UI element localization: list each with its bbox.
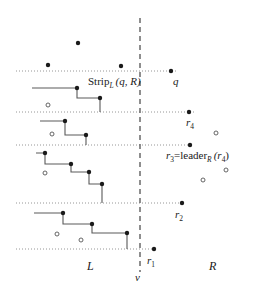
- label-divider-v-text: v: [135, 271, 140, 283]
- left-points-open-point-5: [79, 238, 83, 242]
- left-points-filled-point-5: [98, 96, 102, 100]
- label-r3-function: leader: [180, 149, 207, 161]
- staircase-1: [32, 88, 100, 112]
- right-points-open-point-3: [201, 178, 205, 182]
- left-points-filled-point-12: [61, 211, 65, 215]
- right-points-filled-point-3: [188, 143, 192, 147]
- left-points-filled-point-3: [119, 64, 123, 68]
- left-points-filled-point-8: [43, 151, 47, 155]
- label-r1-subscript: 1: [151, 260, 155, 269]
- right-points-filled-point-2: [187, 110, 191, 114]
- left-points-filled-point-14: [125, 231, 129, 235]
- left-points-filled-point-7: [84, 133, 88, 137]
- left-points-filled-point-4: [75, 86, 79, 90]
- label-region-right-text: R: [209, 259, 216, 273]
- label-r3-arg-open: (r: [214, 149, 222, 161]
- label-divider-v: v: [135, 272, 140, 283]
- left-points-open-point-2: [50, 132, 54, 136]
- left-points-open-point-4: [55, 232, 59, 236]
- label-strip-word: Strip: [88, 75, 109, 87]
- figure-canvas: [0, 0, 268, 289]
- left-points-filled-point-13: [90, 222, 94, 226]
- staircase-4: [34, 213, 127, 249]
- label-r2: r2: [175, 209, 183, 223]
- label-q-text: q: [173, 75, 179, 87]
- staircase-3: [36, 153, 102, 203]
- right-points-open-point-1: [214, 131, 218, 135]
- left-points-filled-point-10: [87, 170, 91, 174]
- label-r4-subscript: 4: [190, 122, 194, 131]
- figure-container: StripL(q, R) q r4 r3=leaderR(r4) r2 r1 L…: [0, 0, 268, 289]
- label-r3-function-subscript: R: [207, 155, 212, 164]
- label-region-left: L: [87, 260, 94, 272]
- left-points-open-point-3: [43, 171, 47, 175]
- label-r2-subscript: 2: [179, 214, 183, 223]
- label-region-left-text: L: [87, 259, 94, 273]
- label-strip-args: (q, R): [116, 75, 141, 87]
- staircase-2: [40, 121, 86, 145]
- left-points-filled-point-11: [100, 182, 104, 186]
- label-strip: StripL(q, R): [88, 76, 141, 90]
- left-points-filled-point-9: [69, 162, 73, 166]
- label-r4: r4: [186, 117, 194, 131]
- left-points-filled-point-6: [63, 119, 67, 123]
- left-points-open-point-1: [46, 103, 50, 107]
- right-points-filled-point-5: [152, 247, 156, 251]
- left-points-filled-point-1: [46, 63, 50, 67]
- label-r3-arg-close: ): [225, 149, 229, 161]
- label-strip-subscript: L: [109, 81, 113, 90]
- label-r3-leader: r3=leaderR(r4): [166, 150, 229, 164]
- right-points-filled-point-4: [180, 201, 184, 205]
- right-points-open-point-2: [224, 168, 228, 172]
- left-points-filled-point-2: [76, 41, 80, 45]
- label-q: q: [173, 76, 179, 87]
- label-region-right: R: [209, 260, 216, 272]
- label-r1: r1: [147, 255, 155, 269]
- right-points-filled-point-1: [169, 69, 173, 73]
